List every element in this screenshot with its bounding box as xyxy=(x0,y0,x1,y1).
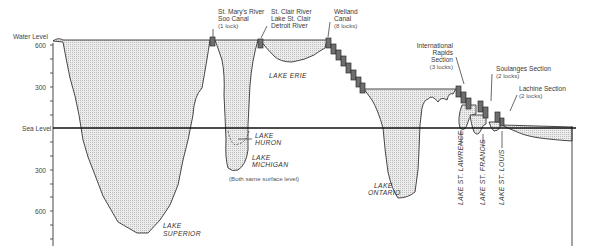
tick-label-300-below: 300 xyxy=(35,167,46,174)
lake-st-lawrence-label: LAKE ST. LAWRENCE xyxy=(457,130,464,205)
lake-michigan-label-1: LAKE xyxy=(252,154,271,161)
soulanges-label-2: (2 locks) xyxy=(496,72,519,79)
welland-label-2: Canal xyxy=(334,15,352,22)
lachine-label-1: Lachine Section xyxy=(519,85,566,92)
tick-label-600-below: 600 xyxy=(35,208,46,215)
lake-erie-label: LAKE ERIE xyxy=(269,72,307,79)
lock-intl-rapids-1 xyxy=(456,86,461,97)
sea-level-label: Sea Level xyxy=(22,125,52,132)
lake-st-louis-shape xyxy=(489,122,500,131)
lake-huron-label-1: LAKE xyxy=(255,132,274,139)
intl-rapids-label-1: International xyxy=(417,42,454,49)
lock-welland-2 xyxy=(331,44,336,54)
lake-superior-label-1: LAKE xyxy=(163,222,182,229)
intl-rapids-label-4: (3 locks) xyxy=(430,63,453,70)
tick-label-300-above: 300 xyxy=(35,84,46,91)
lock-lachine-2 xyxy=(500,118,504,126)
great-lakes-profile-diagram: Water Level 600 300 Sea Level 300 600 LA… xyxy=(0,0,590,249)
lock-st-clair xyxy=(258,39,263,48)
st-clair-label-2: Lake St. Clair xyxy=(271,15,311,22)
lock-welland-8 xyxy=(360,83,365,93)
intl-rapids-label-3: Section xyxy=(431,56,453,63)
lock-intl-rapids-3 xyxy=(466,98,471,109)
lake-ontario-label-1: LAKE xyxy=(374,182,393,189)
lock-welland-1 xyxy=(326,38,331,48)
st-clair-label-1: St. Clair River xyxy=(271,8,312,15)
tick-label-600-above: 600 xyxy=(35,42,46,49)
lake-huron-label-2: HURON xyxy=(255,139,281,146)
lock-lachine-1 xyxy=(495,112,500,122)
michigan-surface-note: (Both same surface level) xyxy=(229,175,299,182)
welland-label-3: (8 locks) xyxy=(334,22,357,29)
welland-label-1: Welland xyxy=(334,8,358,15)
lock-soulanges-1 xyxy=(478,101,483,112)
lake-st-louis-label: LAKE ST. LOUIS xyxy=(498,149,505,205)
st-clair-label-3: Detroit River xyxy=(271,22,308,29)
st-marys-label-3: (1 lock) xyxy=(218,22,238,29)
lake-ontario-label-2: ONTARIO xyxy=(368,189,401,196)
lock-welland-3 xyxy=(336,50,341,60)
lock-soulanges-2 xyxy=(483,107,488,118)
lake-st-francis-label: LAKE ST. FRANCIS xyxy=(479,139,486,205)
lock-soo xyxy=(210,37,215,46)
lake-michigan-label-2: MICHIGAN xyxy=(252,161,288,168)
lock-welland-6 xyxy=(351,70,356,80)
lake-erie-shape xyxy=(260,40,327,62)
water-level-label: Water Level xyxy=(13,33,48,40)
lock-welland-4 xyxy=(341,56,346,66)
lake-huron-michigan-shape xyxy=(215,40,258,171)
lock-welland-5 xyxy=(346,63,351,73)
lock-intl-rapids-2 xyxy=(461,92,466,103)
lake-superior-label-2: SUPERIOR xyxy=(163,230,201,237)
vertical-axis: Water Level 600 300 Sea Level 300 600 xyxy=(13,33,53,246)
lake-superior-shape xyxy=(53,39,210,233)
lachine-label-2: (2 locks) xyxy=(519,92,542,99)
st-marys-label-2: Soo Canal xyxy=(218,15,249,22)
